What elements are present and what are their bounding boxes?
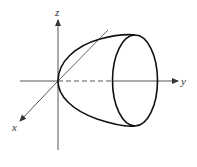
z-axis-label: z (54, 6, 60, 18)
x-axis (20, 81, 58, 121)
y-axis-label: y (180, 75, 186, 87)
x-axis-label: x (11, 121, 17, 133)
paraboloid-diagram: z y x (0, 0, 197, 167)
x-axis-negative (58, 30, 108, 81)
